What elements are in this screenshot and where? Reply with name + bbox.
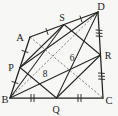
vertex-label-c: C [105, 95, 112, 106]
vertex-label-d: D [97, 1, 105, 12]
midpoint-label-q: Q [52, 104, 60, 115]
midpoint-label-r: R [105, 50, 112, 61]
geometry-figure: A B C D P Q R S 8 6 [0, 0, 118, 116]
geometry-canvas: A B C D P Q R S 8 6 [0, 0, 118, 116]
midpoint-label-s: S [59, 12, 65, 23]
vertex-label-a: A [16, 32, 24, 43]
length-label-bd: 6 [70, 53, 75, 63]
vertex-label-b: B [1, 94, 8, 105]
length-label-ac: 8 [43, 69, 48, 79]
midpoint-label-p: P [8, 62, 14, 73]
